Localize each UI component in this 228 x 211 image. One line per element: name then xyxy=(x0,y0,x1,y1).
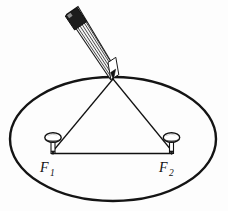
focus-2-subscript: 2 xyxy=(169,168,174,178)
focus-2-letter: F xyxy=(158,160,168,175)
figure-canvas: F 1 F 2 xyxy=(0,0,228,211)
focus-1-subscript: 1 xyxy=(50,168,55,178)
focus-1-letter: F xyxy=(39,160,49,175)
ellipse-construction-figure: F 1 F 2 xyxy=(0,0,228,211)
